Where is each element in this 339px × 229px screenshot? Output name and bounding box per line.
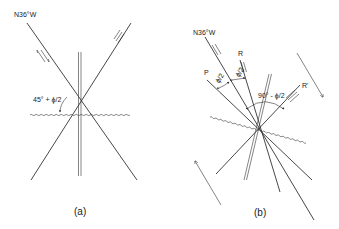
label-r-prime: R'	[302, 82, 308, 89]
slip-arrow-lower-left	[195, 161, 221, 205]
tension-line-b-1	[244, 74, 269, 180]
angle-label-b-1: ϕ/2	[214, 72, 226, 85]
panel-a: N36°W 45° + ϕ/2 (a)	[14, 11, 137, 217]
shear-arrows-r-prime-icon	[286, 90, 299, 102]
tension-line-b-2	[247, 74, 272, 180]
wavy-line	[30, 114, 130, 115]
shear-arrows-n36w-b-icon	[212, 44, 221, 55]
strike-label-a: N36°W	[14, 11, 37, 18]
caption-b: (b)	[254, 207, 266, 218]
shear-arrows-right-icon	[114, 30, 124, 43]
angle-label-a: 45° + ϕ/2	[33, 96, 61, 104]
panel-b: N36°W R P R' ϕ/2 ϕ/2 90° - ϕ/2 (b)	[193, 29, 323, 220]
angle-label-b-3: 90° - ϕ/2	[258, 92, 285, 100]
slip-arrow-upper-right	[297, 53, 323, 97]
strike-label-b: N36°W	[193, 29, 216, 36]
caption-a: (a)	[74, 206, 86, 217]
label-p: P	[204, 69, 209, 76]
label-r: R	[238, 50, 243, 57]
fault-diagram: N36°W 45° + ϕ/2 (a)	[0, 0, 339, 229]
